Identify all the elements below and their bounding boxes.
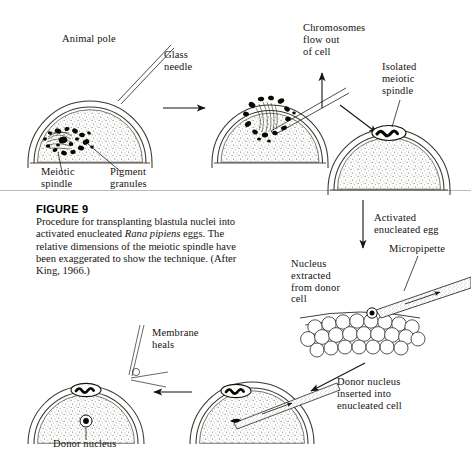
- label-nucleus-extracted: Nucleus extracted from donor cell: [291, 258, 340, 305]
- label-activated-enucleated-egg: Activated enucleated egg: [374, 212, 439, 236]
- step-6-membrane-heals: [28, 325, 168, 444]
- spindle-cap-step6: [71, 383, 101, 396]
- donor-cells: [301, 314, 425, 357]
- isolated-meiotic-spindle: [372, 126, 406, 141]
- caption-italic-species: pipiens: [150, 228, 181, 239]
- label-pigment-granules: Pigment granules: [110, 166, 147, 190]
- figure-caption-text: Procedure for transplanting blastula nuc…: [36, 216, 241, 277]
- label-meiotic-spindle: Meiotic spindle: [41, 166, 75, 190]
- leader-isolated-spindle: [392, 100, 400, 127]
- arrow-step2-to-step3: [340, 105, 377, 133]
- step-5-injected-egg: [190, 382, 340, 444]
- step-3-enucleated-egg: [328, 100, 450, 195]
- figure-number: FIGURE 9: [36, 203, 241, 215]
- label-chromosomes-flow-out: Chromosomes flow out of cell: [303, 22, 365, 57]
- leader-micropipette: [404, 256, 418, 291]
- caption-italic-genus: Rana: [125, 228, 147, 239]
- label-glass-needle: Glass needle: [164, 49, 192, 73]
- micropipette: [376, 277, 471, 318]
- figure-caption-block: FIGURE 9 Procedure for transplanting bla…: [36, 203, 241, 277]
- extracted-nucleus: [367, 308, 377, 318]
- label-membrane-heals: Membrane heals: [152, 327, 199, 351]
- label-donor-nucleus: Donor nucleus: [53, 438, 116, 450]
- label-animal-pole: Animal pole: [62, 33, 116, 45]
- spindle-cap-step5: [221, 384, 251, 397]
- label-donor-nucleus-inserted: Donor nucleus inserted into enucleated c…: [337, 376, 402, 411]
- label-micropipette: Micropipette: [389, 243, 445, 255]
- step-1-egg-cell: [28, 45, 174, 172]
- label-isolated-meiotic-spindle: Isolated meiotic spindle: [382, 61, 416, 96]
- donor-nucleus: [80, 415, 92, 427]
- step-2-egg-needle-inserted: [212, 88, 349, 168]
